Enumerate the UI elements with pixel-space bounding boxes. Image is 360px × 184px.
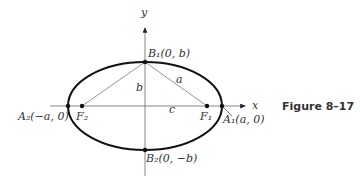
- label-f2: F₂: [75, 110, 88, 123]
- label-a1: A₁(a, 0): [222, 113, 265, 126]
- label-segment-a: a: [176, 73, 183, 86]
- label-a2: A₂(−a, 0): [17, 110, 69, 123]
- point-a1: [220, 104, 224, 108]
- label-b2: B₂(0, −b): [145, 152, 197, 165]
- y-axis-label: y: [140, 6, 148, 19]
- point-b1: [143, 60, 147, 64]
- point-f1: [205, 104, 209, 108]
- ellipse-diagram: y x B₁(0, b) B₂(0, −b) A₁(a, 0) A₂(−a, 0…: [0, 0, 360, 184]
- point-f2: [80, 104, 84, 108]
- figure-caption: Figure 8–17: [282, 100, 354, 113]
- point-a2: [66, 104, 70, 108]
- label-segment-c: c: [169, 103, 175, 116]
- label-b1: B₁(0, b): [147, 47, 190, 60]
- x-axis-label: x: [252, 99, 259, 112]
- label-segment-b: b: [136, 81, 143, 94]
- label-f1: F₁: [199, 110, 212, 123]
